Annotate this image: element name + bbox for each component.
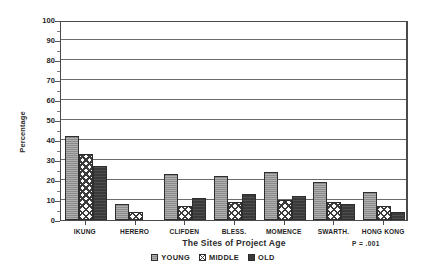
y-axis-tick-label: 50: [29, 116, 55, 125]
y-axis-tick-label: 40: [29, 136, 55, 145]
bar: [115, 204, 129, 220]
legend-entry: YOUNG: [151, 253, 190, 262]
bar: [391, 212, 405, 220]
legend-label: MIDDLE: [209, 253, 239, 262]
bar: [377, 206, 391, 220]
bar-group: [210, 20, 260, 220]
y-axis-tick-label: 10: [29, 196, 55, 205]
legend-entry: MIDDLE: [199, 253, 239, 262]
chart-legend: YOUNGMIDDLEOLD: [0, 253, 426, 262]
bar: [313, 182, 327, 220]
bar: [242, 194, 256, 220]
bar-group: [260, 20, 310, 220]
y-axis-tick-label: 90: [29, 36, 55, 45]
legend-swatch-icon: [248, 254, 255, 261]
bar: [65, 136, 79, 220]
legend-swatch-icon: [151, 254, 158, 261]
y-axis-tick-label: 30: [29, 156, 55, 165]
y-axis-title: Percentage: [18, 92, 27, 172]
y-axis-tick-label: 60: [29, 96, 55, 105]
legend-label: YOUNG: [161, 253, 190, 262]
y-axis-tick-label: 80: [29, 56, 55, 65]
x-axis-tick-mark: [234, 221, 235, 225]
bar-group: [310, 20, 360, 220]
bar-group: [61, 20, 111, 220]
x-axis-tick-mark: [184, 221, 185, 225]
bar: [228, 202, 242, 220]
bar: [178, 206, 192, 220]
x-axis-tick-label: IKUNG: [74, 228, 96, 235]
x-axis-tick-label: HERERO: [120, 228, 149, 235]
bar: [164, 174, 178, 220]
legend-entry: OLD: [248, 253, 275, 262]
bar-chart-figure: Percentage 0102030405060708090100 IKUNGH…: [0, 0, 426, 277]
y-axis-tick-label: 70: [29, 76, 55, 85]
x-axis-tick-mark: [85, 221, 86, 225]
legend-swatch-icon: [199, 254, 206, 261]
bar: [214, 176, 228, 220]
y-axis-tick-label: 0: [29, 216, 55, 225]
x-axis-tick-label: HONG KONG: [362, 228, 405, 235]
bar-group: [160, 20, 210, 220]
bar: [363, 192, 377, 220]
bar: [278, 200, 292, 220]
x-axis-tick-mark: [284, 221, 285, 225]
legend-label: OLD: [258, 253, 275, 262]
x-axis-tick-mark: [333, 221, 334, 225]
y-axis-tick-mark: [55, 221, 60, 222]
bar: [129, 212, 143, 220]
y-axis-tick-label: 20: [29, 176, 55, 185]
bar: [192, 198, 206, 220]
x-axis-tick-mark: [383, 221, 384, 225]
x-axis-tick-mark: [135, 221, 136, 225]
p-value-annotation: P = .001: [352, 240, 380, 247]
bar: [292, 196, 306, 220]
bar: [93, 166, 107, 220]
plot-area: [60, 21, 408, 221]
bar-group: [111, 20, 161, 220]
bar: [327, 202, 341, 220]
bar: [79, 154, 93, 220]
x-axis-tick-label: BLESS.: [222, 228, 247, 235]
y-axis-tick-label: 100: [29, 16, 55, 25]
bar: [341, 204, 355, 220]
x-axis-tick-label: MOMENCE: [266, 228, 301, 235]
bar: [264, 172, 278, 220]
bar-group: [359, 20, 409, 220]
x-axis-tick-label: CLIFDEN: [169, 228, 199, 235]
x-axis-tick-label: SWARTH.: [318, 228, 349, 235]
